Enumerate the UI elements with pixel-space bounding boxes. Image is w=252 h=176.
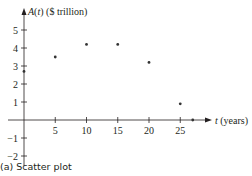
x-tick-label: 10: [82, 125, 92, 136]
y-tick-label: 2: [13, 79, 18, 90]
y-tick-label: −2: [7, 151, 18, 162]
y-axis-label: A(t) ($ trillion): [27, 6, 87, 18]
x-tick-label: 20: [144, 125, 154, 136]
data-point: [23, 70, 26, 73]
y-tick-label: 5: [13, 25, 18, 36]
y-tick-label: −1: [7, 133, 18, 144]
x-tick-label: 15: [113, 125, 123, 136]
figure-caption: (a) Scatter plot: [0, 161, 72, 172]
y-tick-label: 4: [13, 43, 18, 54]
data-point: [179, 102, 182, 105]
y-tick-label: 1: [13, 97, 18, 108]
x-tick-label: 5: [53, 125, 58, 136]
data-point: [54, 56, 57, 59]
y-tick-label: 3: [13, 61, 18, 72]
x-tick-label: 25: [175, 125, 185, 136]
y-axis-arrow-icon: [22, 8, 27, 15]
axes: t (years)A(t) ($ trillion)510152025−2−11…: [7, 6, 248, 166]
data-point: [116, 43, 119, 46]
scatter-plot: t (years)A(t) ($ trillion)510152025−2−11…: [0, 0, 252, 176]
data-point: [85, 43, 88, 46]
data-point: [191, 119, 194, 122]
data-point: [148, 61, 151, 64]
data-points: [23, 43, 195, 121]
x-axis-arrow-icon: [205, 118, 212, 123]
x-axis-label: t (years): [215, 115, 248, 127]
